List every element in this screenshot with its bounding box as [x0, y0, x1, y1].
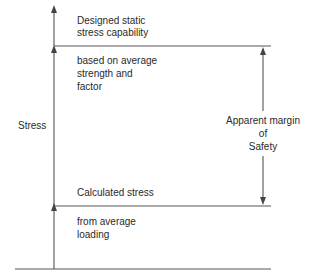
arrowhead-up-icon	[51, 5, 57, 13]
capability-note-line3: factor	[77, 80, 102, 93]
margin-label-line2: of	[213, 127, 313, 140]
margin-label-line1: Apparent margin	[213, 114, 313, 127]
capability-note-line2: strength and	[77, 67, 133, 80]
calculated-note-line1: from average	[77, 215, 136, 228]
calculated-stress-title: Calculated stress	[77, 186, 154, 199]
y-axis-label: Stress	[18, 119, 46, 132]
calculated-note-line2: loading	[77, 228, 109, 241]
margin-label-line3: Safety	[213, 140, 313, 153]
arrowhead-up-icon	[260, 47, 266, 55]
stress-margin-diagram: Stress Designed static stress capability…	[0, 0, 313, 278]
capability-title-line2: stress capability	[77, 26, 148, 39]
capability-note-line1: based on average	[77, 54, 157, 67]
arrowhead-down-icon	[260, 197, 266, 205]
